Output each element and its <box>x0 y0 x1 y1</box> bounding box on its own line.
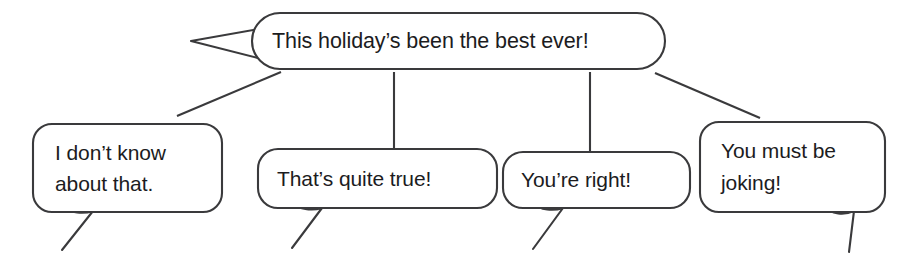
response-bubble-4[interactable]: You must be joking! <box>700 122 885 252</box>
response-bubble-2[interactable]: That’s quite true! <box>258 149 497 248</box>
statement-bubble[interactable]: This holiday’s been the best ever! <box>191 13 665 69</box>
response-bubble-1-body <box>33 124 222 212</box>
connector-group <box>177 72 760 152</box>
response-bubble-3-line-1: You’re right! <box>521 168 631 191</box>
connector-right-diagonal <box>655 73 760 118</box>
response-bubble-4-body <box>700 122 885 212</box>
response-bubble-1[interactable]: I don’t know about that. <box>33 124 222 250</box>
response-bubble-1-line-2: about that. <box>55 172 153 195</box>
response-bubble-3-tail <box>533 202 563 249</box>
response-bubble-4-line-1: You must be <box>721 139 836 162</box>
response-bubble-2-line-1: That’s quite true! <box>277 167 431 190</box>
response-bubble-3[interactable]: You’re right! <box>503 152 690 249</box>
statement-bubble-tail <box>191 29 259 58</box>
response-bubble-1-line-1: I don’t know <box>55 141 167 164</box>
speech-bubble-diagram: This holiday’s been the best ever! I don… <box>0 0 909 262</box>
statement-bubble-text: This holiday’s been the best ever! <box>272 29 589 53</box>
response-bubble-4-line-2: joking! <box>720 171 781 194</box>
connector-left-diagonal <box>177 72 281 116</box>
